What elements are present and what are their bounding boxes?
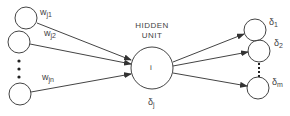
hidden-unit-delta-label: δj	[148, 98, 155, 107]
weight-symbol: w	[42, 72, 49, 82]
diagram-graphics	[0, 0, 290, 116]
weight-symbol: w	[44, 28, 51, 38]
delta-subscript: 2	[279, 42, 283, 49]
input-node-n	[9, 83, 31, 105]
weight-label-j2: wj2	[44, 29, 56, 38]
output-label-2: δ2	[274, 39, 283, 48]
output-node-2	[248, 40, 270, 62]
hidden-unit-inner-label: i	[150, 64, 152, 72]
output-node-1	[244, 19, 266, 41]
weight-label-j1: wj1	[40, 8, 52, 17]
output-node-m	[247, 77, 269, 99]
weight-subscript: jn	[49, 76, 54, 83]
hidden-unit-node	[131, 47, 173, 89]
arrow-output-m	[173, 73, 247, 86]
output-label-1: δ1	[269, 18, 278, 27]
weight-subscript: j2	[51, 32, 56, 39]
weight-subscript: j1	[47, 11, 52, 18]
delta-subscript: 1	[274, 21, 278, 28]
output-label-m: δm	[272, 78, 283, 87]
delta-subscript: j	[153, 101, 155, 108]
arrow-output-1	[173, 34, 244, 62]
input-ellipsis-dots	[17, 59, 20, 78]
hidden-unit-title-line1: HIDDEN	[127, 22, 177, 30]
delta-subscript: m	[277, 81, 283, 88]
backprop-diagram: wj1 wj2 wjn HIDDEN UNIT i δj δ1 δ2 δm	[0, 0, 290, 116]
hidden-unit-title-line2: UNIT	[127, 32, 177, 40]
weight-label-jn: wjn	[42, 73, 54, 82]
input-node-2	[8, 31, 30, 53]
weight-symbol: w	[40, 7, 47, 17]
input-node-1	[15, 7, 37, 29]
arrow-output-2	[173, 52, 248, 66]
output-ellipsis-dots	[258, 63, 260, 77]
